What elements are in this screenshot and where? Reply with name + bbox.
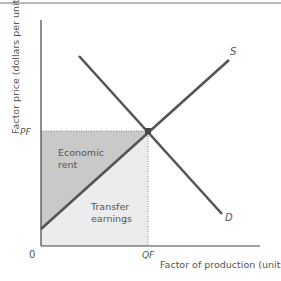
transfer-earnings-label-line2: earnings (91, 213, 132, 224)
pf-label: PF (20, 127, 31, 137)
equilibrium-point (145, 128, 151, 134)
demand-label: D (225, 212, 233, 223)
qf-label: QF (142, 250, 155, 260)
economic-rent-label-line2: rent (58, 159, 78, 170)
economic-rent-diagram: S D PF QF 0 Economic rent Transfer earni… (0, 0, 281, 281)
transfer-earnings-label-line1: Transfer (90, 201, 129, 212)
y-axis-title: Factor price (dollars per unit) (10, 0, 21, 134)
supply-label: S (230, 46, 237, 57)
origin-label: 0 (29, 249, 35, 260)
x-axis-title: Factor of production (units) (160, 259, 281, 270)
economic-rent-label-line1: Economic (58, 147, 104, 158)
